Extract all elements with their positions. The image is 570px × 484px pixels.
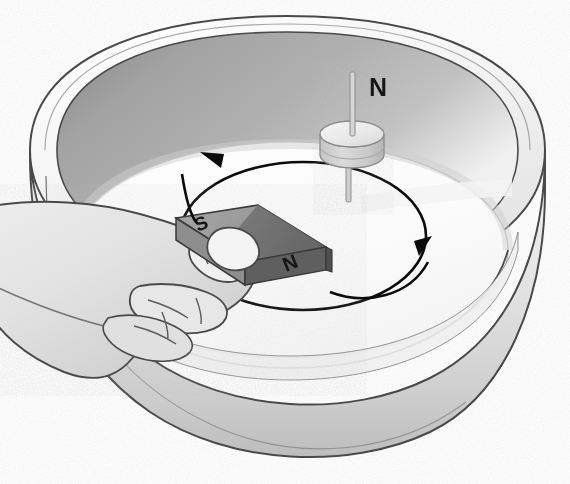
pivot-north-label: N: [369, 73, 387, 101]
scene-svg: N: [0, 0, 570, 484]
pivot-needle-upper: [350, 72, 355, 136]
bar-magnet-end-cap: [326, 247, 332, 272]
illustration-canvas: N: [0, 0, 570, 484]
